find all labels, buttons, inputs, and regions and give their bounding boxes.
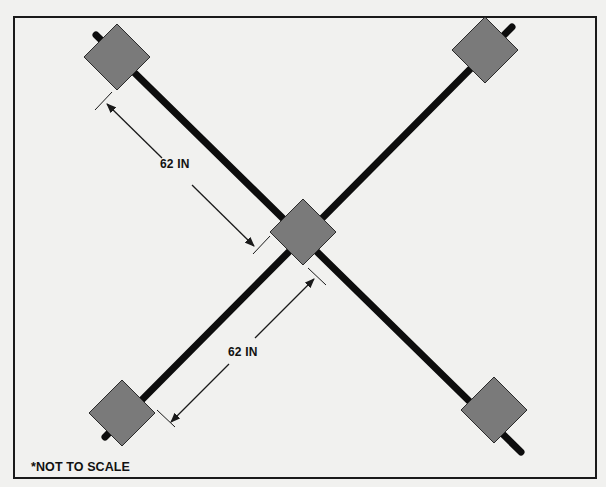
diamond-bottom-left (89, 380, 155, 446)
diamond-center (270, 199, 336, 265)
dimension-label-lower: 62 IN (228, 345, 258, 359)
dimension-arrow-line (192, 185, 254, 246)
dimension-tick (157, 410, 175, 427)
dimension-arrow-line (107, 104, 162, 158)
dimension-arrow-line (171, 364, 229, 422)
diagram-page: 62 IN 62 IN *NOT TO SCALE (0, 0, 606, 487)
climbing-bars-diagram (0, 0, 606, 487)
not-to-scale-note: *NOT TO SCALE (31, 460, 130, 474)
dimension-arrow-line (255, 279, 314, 338)
dimension-tick (253, 236, 270, 254)
dimension-label-upper: 62 IN (160, 157, 190, 171)
diamond-bottom-right (461, 377, 527, 443)
